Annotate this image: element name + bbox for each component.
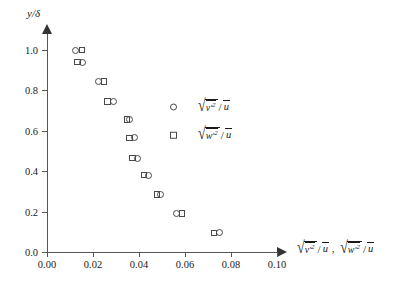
square-marker [126,135,133,142]
y-axis-tick-label: 0.6 [10,125,38,136]
legend-label-w: √ w′2 / u [198,127,232,143]
x-axis-tick [93,252,94,257]
radical-icon: √ [198,97,206,117]
y-axis-arrowhead [42,24,52,34]
y-axis-tick-label: 0.8 [10,85,38,96]
x-axis-tick-label: 0.02 [84,259,102,270]
square-marker [211,230,218,237]
x-title-ubar-2: u [367,242,374,256]
y-axis-tick [42,50,48,51]
legend-v-exp: 2 [212,101,216,109]
radical-icon: √ [198,125,206,145]
x-axis-tick [139,252,140,257]
x-axis-tick [231,252,232,257]
legend-item-w: √ w′2 / u [168,121,232,149]
x-axis-tick-label: 0.00 [38,259,56,270]
square-marker [79,47,86,54]
square-marker [104,98,111,105]
square-marker [154,191,161,198]
y-axis-tick-label: 0.0 [10,247,38,258]
y-axis-tick [42,131,48,132]
square-marker [141,172,148,179]
x-axis-tick [185,252,186,257]
x-axis-tick-label: 0.10 [268,259,286,270]
x-axis-title-term-v: √ v′2 / u [297,241,329,257]
chart-figure: y/δ √ v′2 / u , √ w′2 / u [0,0,399,289]
x-title-ubar-1: u [322,242,329,256]
radical-icon: √ [297,239,305,259]
y-axis-tick [42,212,48,213]
y-axis-tick [42,90,48,91]
x-title-separator: , [332,242,338,254]
legend-w-ubar: u [225,128,232,142]
square-marker [101,78,108,85]
legend-swatch-v [168,102,184,112]
legend-swatch-w [168,130,184,140]
y-axis-tick-label: 0.2 [10,206,38,217]
y-axis-tick-label: 0.4 [10,166,38,177]
radical-icon: √ [340,239,348,259]
legend-item-v: √ v′2 / u [168,93,232,121]
square-marker [170,132,177,139]
square-marker [179,210,186,217]
x-axis-line [47,252,279,253]
x-axis-arrowhead [277,247,287,257]
x-title-v-exp: 2 [311,243,315,251]
y-axis-tick [42,171,48,172]
y-axis-title: y/δ [27,7,40,19]
y-axis-tick-label: 1.0 [10,45,38,56]
x-axis-tick [277,252,278,257]
x-axis-title-term-w: √ w′2 / u [340,241,374,257]
square-marker [74,59,81,66]
circle-marker [110,98,117,105]
x-axis-tick-label: 0.04 [130,259,148,270]
legend-label-v: √ v′2 / u [198,99,230,115]
circle-marker [170,104,177,111]
x-axis-tick-label: 0.06 [176,259,194,270]
y-axis-line [47,33,48,252]
x-title-w-base: w [348,244,355,255]
x-axis-tick-label: 0.08 [222,259,240,270]
square-marker [129,155,136,162]
x-title-w-exp: 2 [357,243,361,251]
chart-legend: √ v′2 / u √ w′2 / u [168,93,232,149]
y-axis-title-delta: δ [35,7,40,19]
legend-v-ubar: u [223,100,230,114]
x-axis-title: √ v′2 / u , √ w′2 / u [297,241,374,257]
square-marker [124,116,131,123]
y-axis-tick [42,252,48,253]
legend-w-exp: 2 [214,129,218,137]
